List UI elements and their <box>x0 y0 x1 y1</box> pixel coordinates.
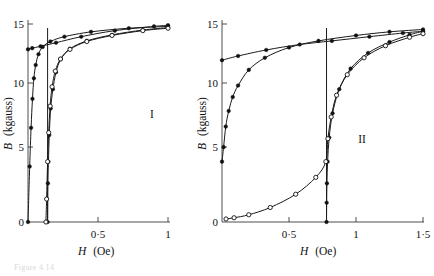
panel-1: 15 10 5 0 0·5 1 H (Oe) B (kgauss) I <box>2 18 171 258</box>
panel-1-xlabel-symbol: H <box>77 245 87 257</box>
data-point-marker <box>408 35 412 39</box>
panel-2-ytick-0: 0 <box>213 216 219 228</box>
data-point-marker <box>317 39 321 43</box>
panel-2-axes <box>222 20 424 222</box>
data-point-marker <box>79 35 83 39</box>
data-point-marker <box>44 220 48 224</box>
panel-2-label: II <box>358 133 366 145</box>
data-point-marker <box>29 126 33 130</box>
panel-2-xtick-05: 0·5 <box>282 228 297 240</box>
data-point-marker <box>34 63 38 67</box>
svg-text:H (Oe): H (Oe) <box>77 245 114 258</box>
data-point-marker <box>30 46 34 50</box>
data-point-marker <box>247 68 251 72</box>
data-point-marker <box>224 125 228 129</box>
panel-1-xtick-05: 0·5 <box>91 228 106 240</box>
panel-1-xlabel-unit: (Oe) <box>93 245 114 258</box>
data-point-marker <box>89 30 93 34</box>
curve-hysteresis-branch-filled <box>48 28 168 222</box>
curve-initial-magnetization-curve <box>222 29 423 161</box>
data-point-marker <box>26 48 30 52</box>
data-point-marker <box>28 165 32 169</box>
data-point-marker <box>166 26 170 30</box>
panel-2-xlabel-symbol: H <box>299 245 309 257</box>
data-point-marker <box>85 39 89 43</box>
data-point-marker <box>368 35 372 39</box>
data-point-marker <box>325 220 329 224</box>
data-point-marker <box>49 40 53 44</box>
data-point-marker <box>227 109 231 113</box>
panel-2-ytick-15: 15 <box>207 18 219 30</box>
data-point-marker <box>401 31 405 35</box>
data-point-marker <box>421 32 425 36</box>
data-point-marker <box>388 30 392 34</box>
data-point-marker <box>264 48 268 52</box>
panel-1-xaxis-title: H (Oe) <box>77 245 114 258</box>
curve-hysteresis-branch-open <box>46 28 168 222</box>
data-point-marker <box>287 46 291 50</box>
data-point-marker <box>325 201 329 205</box>
figure-root: 15 10 5 0 0·5 1 H (Oe) B (kgauss) I <box>0 0 434 276</box>
panel-1-ylabel-unit: (kgauss) <box>2 97 15 136</box>
curve-hysteresis-branch-open <box>226 34 423 219</box>
data-point-marker <box>26 220 30 224</box>
data-point-marker <box>222 145 226 149</box>
curve-upper-saturation-branch <box>222 31 423 60</box>
data-point-marker <box>58 57 62 61</box>
panel-1-ytick-10: 10 <box>13 77 25 89</box>
svg-text:B (kgauss): B (kgauss) <box>196 97 209 150</box>
data-point-marker <box>362 56 366 60</box>
data-point-marker <box>53 69 57 73</box>
panel-2-ylabel-unit: (kgauss) <box>196 97 209 136</box>
data-point-marker <box>31 97 35 101</box>
svg-text:B (kgauss): B (kgauss) <box>2 97 15 150</box>
data-point-marker <box>329 115 333 119</box>
panel-2-xtick-15: 1·5 <box>416 228 431 240</box>
figure-canvas: 15 10 5 0 0·5 1 H (Oe) B (kgauss) I <box>0 0 434 276</box>
panel-1-ytick-15: 15 <box>13 18 25 30</box>
data-point-marker <box>324 160 328 164</box>
data-point-marker <box>48 104 52 108</box>
panel-2: 15 10 5 0 0·5 1 1·5 H (Oe) B (kgauss) II <box>196 18 431 258</box>
curve-hysteresis-branch-filled <box>327 31 423 222</box>
panel-1-ytick-0: 0 <box>19 216 25 228</box>
data-point-marker <box>314 175 318 179</box>
data-point-marker <box>220 160 224 164</box>
curve-upper-saturation-branch <box>28 25 168 49</box>
data-point-marker <box>63 35 67 39</box>
panel-2-xlabel-unit: (Oe) <box>315 245 336 258</box>
panel-1-yaxis-title: B (kgauss) <box>2 97 15 150</box>
data-point-marker <box>220 58 224 62</box>
data-point-marker <box>68 47 72 51</box>
data-point-marker <box>152 25 156 29</box>
panel-1-xtick-1: 1 <box>165 228 171 240</box>
panel-2-ylabel-symbol: B <box>196 143 208 150</box>
data-point-marker <box>110 33 114 37</box>
data-point-marker <box>32 77 36 81</box>
data-point-marker <box>37 52 41 56</box>
panel-1-series-layer <box>26 23 170 224</box>
panel-1-label: I <box>150 108 154 120</box>
panel-2-xaxis-title: H (Oe) <box>299 245 336 258</box>
data-point-marker <box>45 197 49 201</box>
figure-caption-partial: Figure 4.14 <box>14 263 54 272</box>
data-point-marker <box>236 54 240 58</box>
data-point-marker <box>354 34 358 38</box>
data-point-marker <box>224 217 228 221</box>
panel-2-xtick-1: 1 <box>353 228 359 240</box>
data-point-marker <box>50 85 54 89</box>
panel-2-series-layer <box>220 28 425 224</box>
data-point-marker <box>46 160 50 164</box>
data-point-marker <box>294 192 298 196</box>
panel-1-x-ticks <box>98 217 168 222</box>
data-point-marker <box>325 182 329 186</box>
data-point-marker <box>231 95 235 99</box>
data-point-marker <box>334 93 338 97</box>
data-point-marker <box>141 29 145 33</box>
data-point-marker <box>268 205 272 209</box>
data-point-marker <box>127 26 131 30</box>
panel-2-ytick-5: 5 <box>213 141 219 153</box>
data-point-marker <box>236 84 240 88</box>
data-point-marker <box>247 213 251 217</box>
data-point-marker <box>47 131 51 135</box>
